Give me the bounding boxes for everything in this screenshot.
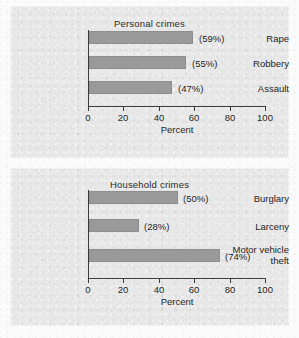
x-tick-80-bottom	[230, 279, 231, 283]
value-label-burglary: (50%)	[183, 193, 208, 204]
x-tick-0-bottom	[88, 279, 89, 283]
category-label-robbery: Robbery	[215, 58, 289, 69]
x-tick-100-top	[265, 107, 266, 111]
x-tick-20-bottom	[123, 279, 124, 283]
bar-chart-personal-crimes: Personal crimes Rape (59%) Robbery (55%)…	[10, 6, 289, 158]
x-tick-100-bottom	[265, 279, 266, 283]
value-label-assault: (47%)	[178, 83, 203, 94]
x-ticklabel-80-bottom: 80	[215, 284, 245, 295]
x-tick-0-top	[88, 107, 89, 111]
x-ticklabel-0-top: 0	[73, 112, 103, 123]
category-label-rape: Rape	[215, 33, 289, 44]
value-label-rape: (59%)	[199, 33, 224, 44]
chart-title-personal: Personal crimes	[10, 18, 289, 29]
x-axis-line-top	[88, 106, 266, 107]
x-ticklabel-20-bottom: 20	[108, 284, 138, 295]
value-label-robbery: (55%)	[192, 58, 217, 69]
x-ticklabel-60-bottom: 60	[179, 284, 209, 295]
x-ticklabel-40-top: 40	[144, 112, 174, 123]
category-label-larceny: Larceny	[215, 221, 289, 232]
figure-canvas: Personal crimes Rape (59%) Robbery (55%)…	[0, 0, 299, 338]
bar-assault	[89, 81, 172, 94]
bar-motor-vehicle-theft	[89, 249, 220, 262]
x-tick-80-top	[230, 107, 231, 111]
value-label-larceny: (28%)	[144, 221, 169, 232]
x-ticklabel-40-bottom: 40	[144, 284, 174, 295]
category-label-assault: Assault	[215, 83, 289, 94]
bar-burglary	[89, 191, 178, 204]
x-axis-line-bottom	[88, 278, 266, 279]
bar-robbery	[89, 56, 186, 69]
x-axis-label-top: Percent	[88, 124, 266, 135]
chart-title-household: Household crimes	[10, 179, 289, 190]
bar-larceny	[89, 219, 139, 232]
x-axis-label-bottom: Percent	[88, 296, 266, 307]
x-tick-60-top	[194, 107, 195, 111]
x-tick-40-top	[159, 107, 160, 111]
chart-panel-household-crimes: Household crimes Burglary (50%) Larceny …	[10, 168, 289, 326]
x-tick-60-bottom	[194, 279, 195, 283]
x-tick-40-bottom	[159, 279, 160, 283]
bar-rape	[89, 31, 193, 44]
bar-chart-household-crimes: Household crimes Burglary (50%) Larceny …	[10, 168, 289, 326]
value-label-motor-vehicle-theft: (74%)	[225, 251, 250, 262]
category-label-burglary: Burglary	[215, 193, 289, 204]
x-ticklabel-60-top: 60	[179, 112, 209, 123]
chart-panel-personal-crimes: Personal crimes Rape (59%) Robbery (55%)…	[10, 6, 289, 158]
x-ticklabel-0-bottom: 0	[73, 284, 103, 295]
x-ticklabel-100-top: 100	[250, 112, 280, 123]
x-tick-20-top	[123, 107, 124, 111]
x-ticklabel-80-top: 80	[215, 112, 245, 123]
x-ticklabel-100-bottom: 100	[250, 284, 280, 295]
x-ticklabel-20-top: 20	[108, 112, 138, 123]
